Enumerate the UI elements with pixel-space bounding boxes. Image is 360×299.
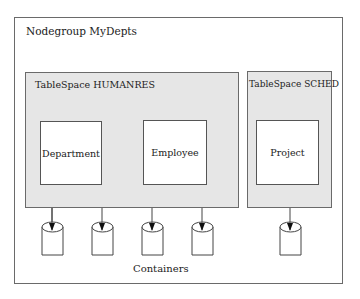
container-2 — [92, 208, 113, 255]
containers-graphic — [0, 0, 360, 299]
container-5 — [280, 208, 301, 255]
container-1 — [42, 208, 63, 255]
container-3 — [142, 208, 163, 255]
containers-label: Containers — [133, 263, 189, 274]
container-4 — [192, 208, 213, 255]
